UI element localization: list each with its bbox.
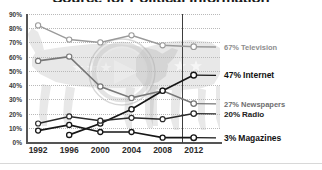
- legend-value-internet: 47%: [224, 70, 241, 80]
- legend-value-magazines: 3%: [224, 133, 236, 143]
- x-axis-labels: 1992 1996 2000 2004 2008 2012: [26, 145, 222, 159]
- x-tick-2004: 2004: [116, 145, 148, 155]
- x-tick-1996: 1996: [53, 145, 85, 155]
- y-tick-40: 40%: [0, 82, 22, 89]
- x-tick-2008: 2008: [147, 145, 179, 155]
- y-tick-60: 60%: [0, 54, 22, 61]
- page-title: Source for Political Information: [0, 0, 322, 2]
- legend-label-internet: Internet: [243, 70, 274, 80]
- y-tick-0: 0%: [0, 139, 22, 146]
- legend-item-newspapers: 27%Newspapers: [224, 100, 285, 109]
- series-layer: [26, 14, 220, 142]
- y-tick-20: 20%: [0, 111, 22, 118]
- legend-item-radio: 20%Radio: [224, 110, 264, 119]
- x-tick-1992: 1992: [22, 145, 54, 155]
- y-tick-80: 80%: [0, 25, 22, 32]
- legend: 67%Television 47%Internet 27%Newspapers …: [224, 14, 322, 146]
- legend-label-radio: Radio: [242, 110, 264, 119]
- y-tick-10: 10%: [0, 125, 22, 132]
- series-radio: [36, 111, 216, 126]
- legend-value-radio: 20%: [224, 110, 240, 119]
- legend-label-television: Television: [241, 43, 277, 52]
- series-magazines: [36, 122, 216, 140]
- legend-value-newspapers: 27%: [224, 100, 239, 109]
- legend-item-television: 67%Television: [224, 43, 277, 52]
- y-tick-70: 70%: [0, 39, 22, 46]
- legend-item-magazines: 3%Magazines: [224, 133, 281, 143]
- y-tick-30: 30%: [0, 96, 22, 103]
- x-tick-2000: 2000: [84, 145, 116, 155]
- x-axis-line: [26, 142, 222, 144]
- y-tick-90: 90%: [0, 11, 22, 18]
- legend-label-magazines: Magazines: [238, 133, 281, 143]
- bottom-divider: [0, 163, 322, 164]
- series-television: [36, 23, 217, 50]
- legend-item-internet: 47%Internet: [224, 70, 274, 80]
- x-tick-2012: 2012: [178, 145, 210, 155]
- y-tick-50: 50%: [0, 68, 22, 75]
- legend-value-television: 67%: [224, 43, 239, 52]
- legend-label-newspapers: Newspapers: [241, 100, 285, 109]
- y-axis-labels: 90% 80% 70% 60% 50% 40% 30% 20% 10% 0%: [0, 14, 24, 143]
- series-newspapers: [36, 54, 217, 106]
